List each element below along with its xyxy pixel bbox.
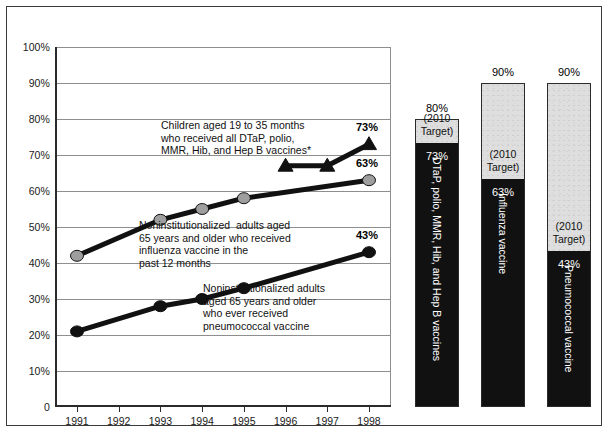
- series-marker-circle: [196, 204, 209, 215]
- x-tick-label: 1993: [149, 415, 172, 427]
- y-tick-label: 30%: [29, 293, 50, 305]
- y-tick-label: 70%: [29, 149, 50, 161]
- dtap-bar: 80%(2010 Target)73%DTaP, polio, MMR, Hib…: [415, 47, 459, 407]
- y-tick-label: 60%: [29, 185, 50, 197]
- series-marker-circle: [363, 247, 376, 258]
- y-tick-label: 0: [44, 401, 50, 413]
- x-tick-label: 1997: [316, 415, 339, 427]
- bar-target-caption: (2010 Target): [548, 220, 590, 245]
- x-tick-mark: [327, 407, 328, 412]
- bar-target-caption: (2010 Target): [416, 112, 458, 137]
- y-tick-label: 10%: [29, 365, 50, 377]
- bar-target-percent: 90%: [558, 66, 580, 78]
- series-end-value-label: 43%: [356, 229, 378, 241]
- bar-target-area: (2010 Target)43%Pneumococcal vaccine: [547, 83, 591, 407]
- chart-outer-frame: 010%20%30%40%50%60%70%80%90%100% 1991199…: [6, 6, 602, 426]
- y-tick-label: 80%: [29, 113, 50, 125]
- x-tick-label: 1996: [274, 415, 297, 427]
- x-tick-mark: [369, 407, 370, 412]
- chart-page: 010%20%30%40%50%60%70%80%90%100% 1991199…: [0, 0, 610, 434]
- bar-target-caption: (2010 Target): [482, 148, 524, 173]
- y-tick-label: 50%: [29, 221, 50, 233]
- x-tick-mark: [160, 407, 161, 412]
- bar-target-percent: 90%: [492, 66, 514, 78]
- series-marker-circle: [154, 301, 167, 312]
- line-chart-plot-area: 010%20%30%40%50%60%70%80%90%100% 1991199…: [55, 47, 391, 407]
- plot-inner: 010%20%30%40%50%60%70%80%90%100% 1991199…: [55, 47, 391, 407]
- x-tick-label: 1998: [357, 415, 380, 427]
- x-tick-label: 1995: [232, 415, 255, 427]
- x-tick-mark: [244, 407, 245, 412]
- influenza-annotation: Noninstitutionalized adults aged 65 year…: [139, 219, 291, 269]
- x-tick-label: 1994: [190, 415, 213, 427]
- target-bar-panel: 80%(2010 Target)73%DTaP, polio, MMR, Hib…: [407, 47, 603, 407]
- series-marker-triangle: [362, 137, 377, 150]
- y-tick-label: 100%: [23, 41, 50, 53]
- series-marker-circle: [363, 175, 376, 186]
- pneumococcal-annotation: Noninstitutionalized adults aged 65 year…: [203, 282, 325, 332]
- y-tick-label: 20%: [29, 329, 50, 341]
- y-tick-label: 90%: [29, 77, 50, 89]
- influenza-bar: 90%(2010 Target)63%Influenza vaccine: [481, 47, 525, 407]
- x-tick-mark: [286, 407, 287, 412]
- bar-category-label: Pneumococcal vaccine: [563, 265, 575, 372]
- series-marker-circle: [237, 193, 250, 204]
- bar-category-label: Influenza vaccine: [497, 193, 509, 274]
- series-end-value-label: 73%: [356, 121, 378, 133]
- series-marker-circle: [71, 326, 84, 337]
- y-tick-label: 40%: [29, 257, 50, 269]
- bar-target-area: (2010 Target)63%Influenza vaccine: [481, 83, 525, 407]
- children-annotation: Children aged 19 to 35 months who receiv…: [161, 119, 311, 157]
- bar-category-label: DTaP, polio, MMR, Hib, and Hep B vaccine…: [431, 157, 443, 361]
- x-tick-label: 1991: [65, 415, 88, 427]
- series-end-value-label: 63%: [356, 157, 378, 169]
- x-tick-mark: [119, 407, 120, 412]
- x-tick-label: 1992: [107, 415, 130, 427]
- pneumococcal-bar: 90%(2010 Target)43%Pneumococcal vaccine: [547, 47, 591, 407]
- bar-target-area: (2010 Target)73%DTaP, polio, MMR, Hib, a…: [415, 119, 459, 407]
- x-tick-mark: [202, 407, 203, 412]
- series-marker-circle: [71, 250, 84, 261]
- x-tick-mark: [77, 407, 78, 412]
